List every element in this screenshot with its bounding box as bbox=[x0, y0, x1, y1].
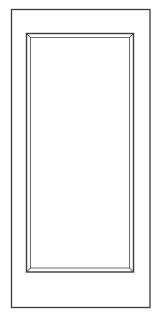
door-diagram bbox=[0, 0, 160, 317]
